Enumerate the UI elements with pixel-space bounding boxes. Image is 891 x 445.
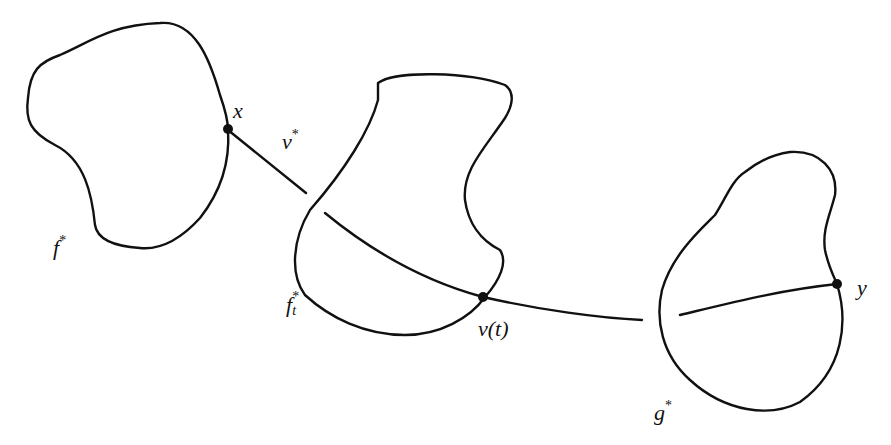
- point-y-marker: [832, 279, 842, 289]
- label-g-star: g*: [654, 401, 672, 424]
- point-nu-t-marker: [478, 292, 488, 302]
- label-f-star: f*: [53, 236, 66, 259]
- region-g-star: [659, 152, 842, 411]
- path-nu-star-segment-3: [680, 284, 837, 315]
- label-ft-star-sup: *: [292, 290, 299, 304]
- label-f-star-sup: *: [59, 233, 66, 248]
- label-nu-star: ν*: [282, 130, 299, 153]
- label-nu-t: ν(t): [478, 318, 509, 340]
- path-nu-star-segment-2: [325, 213, 642, 320]
- label-ft-star-sub: t: [292, 304, 296, 318]
- label-g-star-sup: *: [665, 398, 672, 413]
- label-ft-star: f*t: [286, 294, 302, 316]
- label-x-text: x: [233, 98, 243, 123]
- label-y: y: [857, 277, 867, 299]
- label-nu-t-text: ν(t): [478, 316, 509, 341]
- region-f-star: [27, 23, 228, 248]
- point-x-marker: [223, 124, 233, 134]
- diagram-canvas: [0, 0, 891, 445]
- label-nu-star-sup: *: [292, 127, 299, 142]
- label-nu-star-base: ν: [282, 129, 292, 154]
- label-y-text: y: [857, 275, 867, 300]
- label-x: x: [233, 100, 243, 122]
- label-g-star-base: g: [654, 400, 665, 425]
